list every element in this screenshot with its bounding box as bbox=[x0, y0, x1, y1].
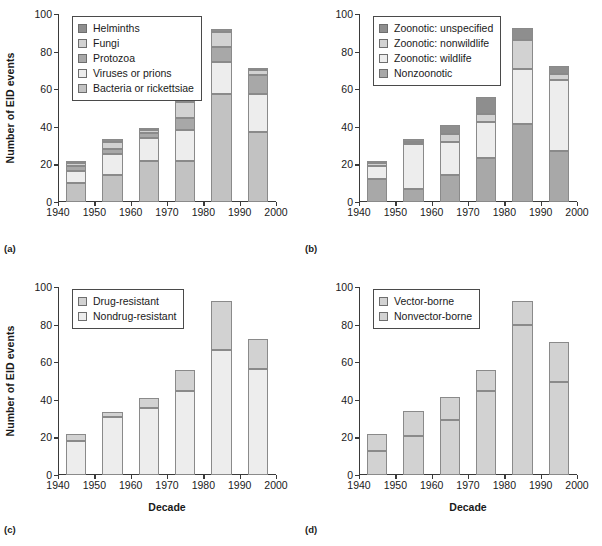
panel-c-y-tick-mark bbox=[54, 400, 58, 401]
legend-item-zoonotic-wildlife: Zoonotic: wildlife bbox=[379, 51, 493, 66]
eid-events-figure: Number of EID events HelminthsFungiProto… bbox=[0, 0, 602, 546]
bar-segment-viruses-or-prions bbox=[139, 138, 159, 161]
panel-c-y-tick-label: 60 bbox=[12, 356, 58, 368]
bar-segment-nonvector-borne bbox=[512, 325, 532, 475]
panel-c-label: (c) bbox=[4, 524, 16, 535]
bar-1940s bbox=[367, 161, 387, 202]
bar-segment-nonzoonotic bbox=[367, 179, 387, 202]
legend-item-label: Protozoa bbox=[93, 51, 135, 66]
legend-item-label: Fungi bbox=[93, 36, 119, 51]
bar-segment-bacteria-or-rickettsiae bbox=[102, 175, 122, 202]
panel-a-x-tick-label: 1940 bbox=[46, 206, 69, 218]
panel-a-y-tick-label: 40 bbox=[12, 121, 58, 133]
panel-d-y-tick-mark bbox=[355, 437, 359, 438]
panel-a-y-tick-label: 60 bbox=[12, 83, 58, 95]
panel-a-x-tick-mark bbox=[240, 202, 241, 206]
bar-1950s bbox=[102, 412, 122, 475]
panel-b-x-tick-label: 1950 bbox=[384, 206, 407, 218]
panel-c-y-tick-mark bbox=[54, 325, 58, 326]
panel-d-y-tick-label: 100 bbox=[313, 281, 359, 293]
bar-segment-nondrug-resistant bbox=[175, 391, 195, 475]
legend-item-label: Nonvector-borne bbox=[394, 309, 472, 324]
panel-d-y-tick-mark bbox=[355, 362, 359, 363]
bar-segment-nonvector-borne bbox=[367, 451, 387, 475]
panel-a-legend: HelminthsFungiProtozoaViruses or prionsB… bbox=[72, 16, 202, 101]
panel-a: Number of EID events HelminthsFungiProto… bbox=[0, 0, 301, 273]
bar-segment-drug-resistant bbox=[66, 434, 86, 442]
bar-1980s bbox=[211, 29, 231, 202]
panel-c-x-tick-label: 1950 bbox=[83, 479, 106, 491]
bar-segment-zoonotic-wildlife bbox=[476, 122, 496, 158]
bar-segment-zoonotic-unspecified bbox=[512, 28, 532, 40]
bar-segment-zoonotic-wildlife bbox=[512, 69, 532, 124]
panel-a-x-tick-mark bbox=[131, 202, 132, 206]
panel-b-x-tick-mark bbox=[504, 202, 505, 206]
legend-swatch-icon bbox=[78, 24, 87, 33]
bar-1970s bbox=[175, 370, 195, 475]
legend-item-label: Zoonotic: wildlife bbox=[394, 51, 472, 66]
bar-segment-viruses-or-prions bbox=[248, 94, 268, 132]
panel-b-y-tick-label: 40 bbox=[313, 121, 359, 133]
panel-c-x-tick-label: 1940 bbox=[46, 479, 69, 491]
bar-1940s bbox=[66, 434, 86, 475]
panel-a-y-axis-line bbox=[58, 14, 59, 202]
panel-b-y-tick-label: 100 bbox=[313, 8, 359, 20]
panel-b-y-tick-label: 20 bbox=[313, 158, 359, 170]
bar-1980s bbox=[211, 301, 231, 475]
panel-c-x-tick-label: 1960 bbox=[119, 479, 142, 491]
panel-a-y-tick-label: 20 bbox=[12, 158, 58, 170]
panel-d-y-tick-label: 60 bbox=[313, 356, 359, 368]
bar-1990s bbox=[248, 339, 268, 475]
panel-a-x-tick-mark bbox=[276, 202, 277, 206]
bar-segment-nondrug-resistant bbox=[102, 417, 122, 475]
bar-segment-nonvector-borne bbox=[440, 420, 460, 475]
legend-item-nonzoonotic: Nonzoonotic bbox=[379, 66, 493, 81]
bar-1940s bbox=[66, 161, 86, 202]
bar-1970s bbox=[476, 97, 496, 202]
bar-segment-zoonotic-nonwildlife bbox=[440, 134, 460, 142]
panel-c-x-tick-label: 1980 bbox=[192, 479, 215, 491]
bar-segment-nonvector-borne bbox=[476, 391, 496, 475]
bar-segment-drug-resistant bbox=[139, 398, 159, 408]
bar-segment-viruses-or-prions bbox=[175, 130, 195, 161]
bar-1970s bbox=[175, 100, 195, 202]
panel-c-y-tick-label: 100 bbox=[12, 281, 58, 293]
bar-segment-nonzoonotic bbox=[512, 124, 532, 202]
legend-item-label: Viruses or prions bbox=[93, 66, 172, 81]
panel-b-y-tick-mark bbox=[355, 127, 359, 128]
bar-segment-vector-borne bbox=[512, 301, 532, 325]
panel-a-y-tick-mark bbox=[54, 14, 58, 15]
panel-d-plot-area: Vector-borneNonvector-borne 020406080100… bbox=[359, 287, 577, 475]
bar-segment-zoonotic-wildlife bbox=[403, 144, 423, 189]
bar-segment-bacteria-or-rickettsiae bbox=[211, 94, 231, 202]
panel-c-x-tick-mark bbox=[94, 475, 95, 479]
legend-item-viruses-or-prions: Viruses or prions bbox=[78, 66, 194, 81]
panel-b-x-tick-mark bbox=[359, 202, 360, 206]
panel-b-x-tick-label: 2000 bbox=[565, 206, 588, 218]
legend-item-drug-resistant: Drug-resistant bbox=[78, 294, 176, 309]
legend-item-zoonotic-nonwildlife: Zoonotic: nonwildlife bbox=[379, 36, 493, 51]
panel-d-x-tick-label: 1980 bbox=[493, 479, 516, 491]
legend-swatch-icon bbox=[78, 84, 87, 93]
panel-a-x-tick-label: 1980 bbox=[192, 206, 215, 218]
legend-item-vector-borne: Vector-borne bbox=[379, 294, 472, 309]
bar-segment-zoonotic-nonwildlife bbox=[512, 40, 532, 68]
bar-segment-zoonotic-unspecified bbox=[476, 97, 496, 114]
legend-item-label: Zoonotic: nonwildlife bbox=[394, 36, 489, 51]
panel-b-y-tick-mark bbox=[355, 164, 359, 165]
panel-d-x-tick-mark bbox=[395, 475, 396, 479]
legend-swatch-icon bbox=[78, 39, 87, 48]
panel-d: Vector-borneNonvector-borne 020406080100… bbox=[301, 273, 602, 546]
panel-a-x-tick-label: 1970 bbox=[155, 206, 178, 218]
panel-a-y-tick-mark bbox=[54, 164, 58, 165]
panel-d-y-tick-mark bbox=[355, 325, 359, 326]
bar-segment-fungi bbox=[175, 102, 195, 118]
legend-swatch-icon bbox=[78, 69, 87, 78]
panel-a-x-tick-label: 1950 bbox=[83, 206, 106, 218]
panel-b-legend: Zoonotic: unspecifiedZoonotic: nonwildli… bbox=[373, 16, 501, 86]
panel-a-y-tick-label: 100 bbox=[12, 8, 58, 20]
panel-d-y-tick-label: 20 bbox=[313, 431, 359, 443]
panel-c: Number of EID events Drug-resistantNondr… bbox=[0, 273, 301, 546]
panel-c-y-axis-line bbox=[58, 287, 59, 475]
legend-swatch-icon bbox=[379, 297, 388, 306]
